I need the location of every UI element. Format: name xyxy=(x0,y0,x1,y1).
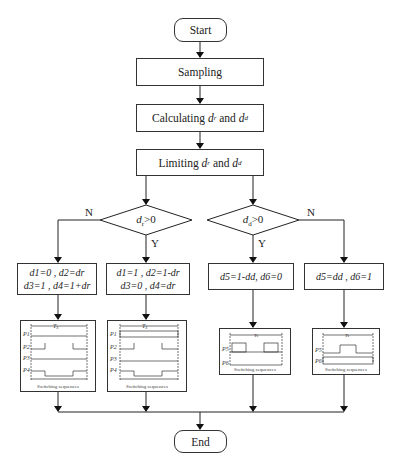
sampling-step: Sampling xyxy=(136,58,264,86)
duty-box-c: d5=1-dd, d6=0 xyxy=(208,263,294,290)
svg-text:P5: P5 xyxy=(314,347,322,353)
switching-sequence-b: TS P1P2P3P4 Switching sequences xyxy=(107,320,187,392)
svg-text:P6: P6 xyxy=(221,360,229,366)
waveform-a: TS P1P2P3P4 xyxy=(21,321,97,393)
right-no-label: N xyxy=(307,206,315,218)
start-terminal: Start xyxy=(174,18,227,42)
svg-text:P2: P2 xyxy=(22,344,30,350)
svg-text:P1: P1 xyxy=(22,331,30,337)
duty-box-b: d1=1 , d2=1-dr d3=0 , d4=dr xyxy=(106,263,190,295)
decision-dr-label: dr>0 xyxy=(126,213,166,228)
svg-text:P1: P1 xyxy=(109,331,117,337)
svg-text:P4: P4 xyxy=(109,367,117,373)
switching-sequence-c: Ts P5P6 Switching sequences xyxy=(219,328,291,375)
svg-text:P3: P3 xyxy=(22,355,30,361)
svg-text:P6: P6 xyxy=(314,358,322,364)
calculating-step: Calculating dr and dd xyxy=(136,104,264,132)
svg-text:P3: P3 xyxy=(109,356,117,362)
switching-sequence-a: TS P1P2P3P4 Switching sequences xyxy=(20,320,96,392)
decision-dd-label: dd>0 xyxy=(233,213,273,228)
right-yes-label: Y xyxy=(258,237,266,249)
svg-text:TS: TS xyxy=(142,323,147,330)
switching-sequence-d: Ts P5P6 Switching sequences xyxy=(312,328,380,375)
svg-text:Ts: Ts xyxy=(254,333,258,338)
waveform-b: TS P1P2P3P4 xyxy=(108,321,188,393)
svg-text:Ts: Ts xyxy=(345,333,349,338)
duty-box-d: d5=dd , d6=1 xyxy=(304,263,384,290)
left-no-label: N xyxy=(85,206,93,218)
svg-text:P4: P4 xyxy=(22,367,30,373)
end-terminal: End xyxy=(174,430,227,453)
duty-box-a: d1=0 , d2=dr d3=1 , d4=1+dr xyxy=(17,263,97,295)
svg-text:P2: P2 xyxy=(109,344,117,350)
left-yes-label: Y xyxy=(151,237,159,249)
limiting-step: Limiting dr and dd xyxy=(136,149,264,176)
svg-text:P5: P5 xyxy=(221,346,229,352)
svg-text:TS: TS xyxy=(53,323,58,330)
